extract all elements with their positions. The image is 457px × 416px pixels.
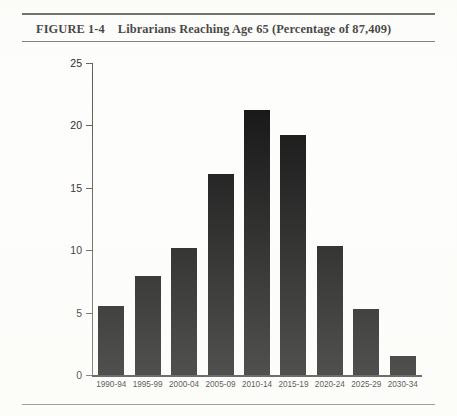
bar-1995-99 [135,276,161,375]
y-tick-5 [86,313,92,314]
y-tick-label-text: 25 [58,58,82,69]
y-tick-label-10: 10 [58,245,82,256]
y-tick-label-text: 15 [58,183,82,194]
bar-2010-14 [244,110,270,375]
figure-page: FIGURE 1-4Librarians Reaching Age 65 (Pe… [0,0,457,416]
y-tick-label-text: 10 [58,245,82,256]
x-axis-label-2020-24: 2020-24 [312,379,348,391]
x-axis-label-2030-34: 2030-34 [385,379,421,391]
bar-2025-29 [353,309,379,375]
bar-2020-24 [317,246,343,375]
y-tick-label-25: 25 [58,58,82,69]
bar-2005-09 [208,174,234,375]
y-tick-label-0: 0 [58,370,82,381]
y-tick-label-15: 15 [58,183,82,194]
x-axis-label-1995-99: 1995-99 [129,379,165,391]
page-bottom-rule [22,404,435,405]
y-axis-line [92,63,93,376]
bar-2015-19 [280,135,306,375]
x-axis-label-2000-04: 2000-04 [166,379,202,391]
bar-1990-94 [98,306,124,375]
y-tick-20 [86,125,92,126]
x-axis-label-2025-29: 2025-29 [348,379,384,391]
y-tick-25 [86,63,92,64]
x-axis-label-1990-94: 1990-94 [93,379,129,391]
y-tick-10 [86,250,92,251]
bar-2000-04 [171,248,197,375]
bar-2030-34 [390,356,416,375]
y-tick-label-text: 5 [58,308,82,319]
x-axis-line [92,375,422,377]
y-tick-label-text: 0 [58,370,82,381]
y-tick-label-20: 20 [58,120,82,131]
y-tick-0 [86,375,92,376]
y-tick-label-5: 5 [58,308,82,319]
y-tick-15 [86,188,92,189]
bar-chart: 0510152025 1990-941995-992000-042005-092… [0,0,457,416]
x-axis-label-2015-19: 2015-19 [275,379,311,391]
x-axis-label-2005-09: 2005-09 [202,379,238,391]
x-axis-label-2010-14: 2010-14 [239,379,275,391]
y-tick-label-text: 20 [58,120,82,131]
